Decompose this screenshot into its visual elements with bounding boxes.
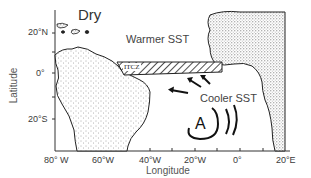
x-tick-40w: 40°W	[139, 155, 161, 165]
y-tick-20s: 20°S	[28, 114, 48, 124]
africa-landmass	[208, 11, 285, 151]
trade-wind-arrows	[168, 75, 210, 93]
x-tick-20w: 20°W	[184, 155, 206, 165]
dry-label: Dry	[78, 6, 101, 23]
x-axis-title: Longitude	[146, 165, 190, 176]
cooler-sst-label: Cooler SST	[200, 92, 257, 104]
itcz-label: ITCZ	[123, 63, 141, 71]
anticyclone-label: A	[195, 115, 206, 133]
y-tick-20n: 20°N	[28, 27, 48, 37]
y-tick-0: 0°	[36, 68, 45, 78]
x-tick-60w: 60°W	[92, 155, 114, 165]
caribbean-islands	[57, 23, 89, 34]
x-tick-20e: 20°E	[276, 155, 296, 165]
x-tick-80w: 80° W	[44, 155, 69, 165]
x-tick-0: 0°	[233, 155, 242, 165]
warmer-sst-label: Warmer SST	[126, 33, 189, 45]
y-axis-title: Latitude	[8, 68, 19, 104]
